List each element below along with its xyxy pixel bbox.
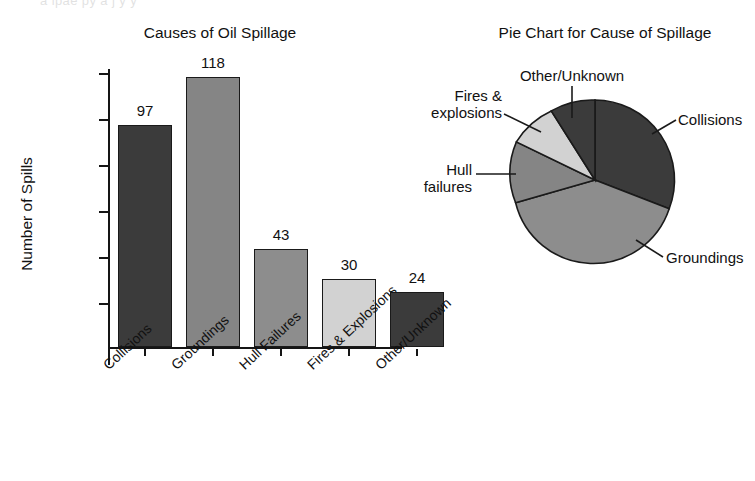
y-tick-100 — [99, 119, 108, 121]
pie-label-hull-failures-line1: Hull — [368, 162, 472, 179]
x-tick-other-unknown — [416, 349, 418, 356]
scanned-page-bleed: a ipae py a j y y — [0, 0, 755, 12]
bar-collisions[interactable] — [118, 125, 172, 347]
pie-label-hull-failures-line2: failures — [368, 179, 472, 196]
pie-label-fires-explosions-line2: explosions — [390, 105, 502, 122]
pie-label-fires-explosions: Fires & explosions — [390, 88, 502, 122]
y-tick-60 — [99, 211, 108, 213]
leader-line-collisions — [652, 120, 676, 134]
y-axis-title: Number of Spills — [18, 139, 36, 289]
bar-value-fires-explosions: 30 — [322, 257, 376, 272]
pie-label-collisions: Collisions — [678, 112, 742, 129]
bar-value-hull-failures: 43 — [254, 227, 308, 242]
y-tick-80 — [99, 165, 108, 167]
pie-chart-title: Pie Chart for Cause of Spillage — [460, 24, 750, 42]
pie-chart: Collisions Groundings Hull failures Fire… — [420, 50, 755, 290]
y-tick-120 — [99, 73, 108, 75]
pie-label-hull-failures: Hull failures — [368, 162, 472, 196]
pie-label-groundings: Groundings — [666, 250, 744, 267]
y-tick-40 — [99, 257, 108, 259]
x-tick-fires-explosions — [348, 349, 350, 356]
pie-label-fires-explosions-line1: Fires & — [390, 88, 502, 105]
page-bleed-text: a ipae py a j y y — [40, 0, 137, 8]
x-tick-groundings — [212, 349, 214, 356]
bar-value-collisions: 97 — [118, 103, 172, 118]
figure-canvas: a ipae py a j y y Causes of Oil Spillage… — [0, 0, 755, 481]
y-tick-20 — [99, 303, 108, 305]
pie-label-other-unknown: Other/Unknown — [506, 68, 638, 85]
x-tick-collisions — [144, 349, 146, 356]
bar-value-groundings: 118 — [186, 55, 240, 70]
bar-chart: Number of Spills 120 100 80 60 40 20 0 9… — [0, 55, 420, 475]
x-tick-hull-failures — [280, 349, 282, 356]
y-axis-line — [108, 69, 110, 365]
bar-chart-title: Causes of Oil Spillage — [70, 24, 370, 42]
bar-groundings[interactable] — [186, 77, 240, 347]
